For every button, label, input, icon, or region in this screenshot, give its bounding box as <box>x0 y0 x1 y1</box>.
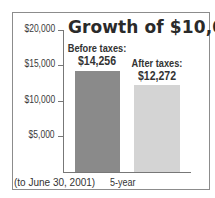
y-tick <box>58 65 63 66</box>
bar-value: $14,256 <box>66 55 128 68</box>
y-tick-label: $5,000 <box>29 129 55 140</box>
period-footnote: (to June 30, 2001) <box>14 177 95 188</box>
y-axis <box>63 30 64 172</box>
y-tick <box>58 136 63 137</box>
y-tick-label: $10,000 <box>24 94 55 105</box>
bar-before-taxes <box>75 71 120 172</box>
bar-label-after-taxes: After taxes: $12,272 <box>126 57 188 83</box>
x-category-label: 5-year <box>110 177 136 188</box>
bar-label-before-taxes: Before taxes: $14,256 <box>66 42 128 68</box>
y-tick <box>58 30 63 31</box>
y-tick-label: $15,000 <box>24 58 55 69</box>
bar-after-taxes <box>134 85 180 172</box>
y-tick-label: $20,000 <box>24 23 55 34</box>
y-tick <box>58 101 63 102</box>
bar-value: $12,272 <box>126 70 188 83</box>
x-axis <box>63 172 191 173</box>
chart-title: Growth of $10,000 <box>68 17 215 37</box>
